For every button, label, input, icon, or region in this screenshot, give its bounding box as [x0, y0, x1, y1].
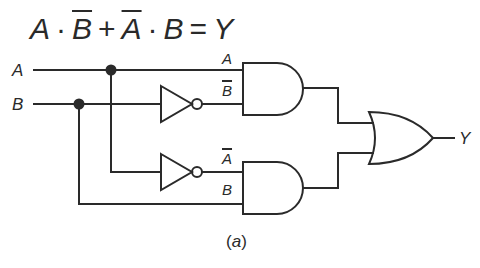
and-gate-1	[243, 63, 303, 115]
wire-and2-out	[303, 153, 374, 188]
and1-pin-a-label: A	[222, 51, 232, 66]
and-gate-2	[243, 162, 303, 214]
wire-a-branch	[111, 70, 161, 172]
output-y-label: Y	[459, 130, 470, 147]
input-a-label: A	[12, 62, 23, 79]
junction-a	[106, 65, 117, 76]
junction-b	[74, 99, 85, 110]
figure-caption: (a)	[226, 232, 247, 252]
and2-pin-b-label: B	[222, 182, 232, 197]
not-gate-1	[161, 86, 192, 122]
circuit-wiring	[0, 0, 480, 268]
logic-circuit-diagram: A·B+A·B=Y	[0, 0, 480, 268]
and1-pin-b-not-label: B	[222, 83, 232, 98]
not-gate-2	[161, 154, 192, 190]
and2-pin-a-not-label: A	[222, 151, 232, 166]
wire-and1-out	[303, 88, 374, 123]
or-gate	[369, 112, 433, 164]
input-b-label: B	[12, 96, 23, 113]
